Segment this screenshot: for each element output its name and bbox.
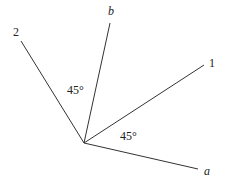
line-a xyxy=(84,143,198,169)
line-1 xyxy=(84,65,204,143)
label-a: a xyxy=(204,165,210,177)
label-1: 1 xyxy=(209,57,215,69)
label-2: 2 xyxy=(13,26,19,38)
angle-label-upper: 45° xyxy=(67,84,84,96)
axes-diagram: 2 b 1 a 45° 45° xyxy=(0,0,225,184)
lines-svg xyxy=(0,0,225,184)
label-b: b xyxy=(108,5,114,17)
angle-label-lower: 45° xyxy=(120,130,137,142)
line-b xyxy=(84,23,110,143)
